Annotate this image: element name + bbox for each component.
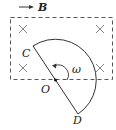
cross-icon <box>19 64 27 72</box>
physics-diagram: B C O D ω <box>0 0 116 130</box>
cross-icon <box>96 64 104 72</box>
cross-icon <box>96 25 104 33</box>
pivot-point-o <box>54 79 57 82</box>
label-omega: ω <box>72 63 81 76</box>
label-o: O <box>41 83 50 96</box>
cross-icon <box>19 25 27 33</box>
label-d: D <box>72 114 82 127</box>
label-c: C <box>22 47 31 60</box>
field-direction-arrow-icon <box>19 5 34 9</box>
field-label-b: B <box>37 1 47 14</box>
semicircle-conductor <box>33 39 96 114</box>
